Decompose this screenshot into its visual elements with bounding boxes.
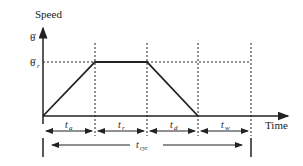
svg-text:d: d [174,124,178,132]
svg-text:cyc: cyc [140,145,148,151]
y-axis-label: Speed [35,8,62,20]
x-axis-label: Time [265,119,288,131]
cycle-label: t cyc [136,139,148,151]
tw-label: t w [221,119,230,132]
svg-text:w: w [225,124,230,132]
td-label: t d [170,119,178,132]
svg-text:θ̇: θ̇ [30,31,36,43]
svg-text:t: t [170,119,173,130]
rated-speed-label: θ̇ r [30,56,40,70]
max-speed-label: θ̇ [30,31,36,43]
svg-text:t: t [136,139,139,150]
svg-text:t: t [118,119,121,130]
tr-label: t r [118,119,125,132]
ta-label: t a [65,119,73,132]
speed-profile-diagram: Speed Time θ̇ θ̇ r t a t r t d t w t cyc [0,0,303,166]
svg-text:r: r [37,62,40,70]
svg-text:t: t [221,119,224,130]
svg-text:a: a [69,124,73,132]
svg-text:θ̇: θ̇ [30,56,36,68]
speed-profile-curve [43,62,198,116]
svg-text:t: t [65,119,68,130]
svg-text:r: r [122,124,125,132]
